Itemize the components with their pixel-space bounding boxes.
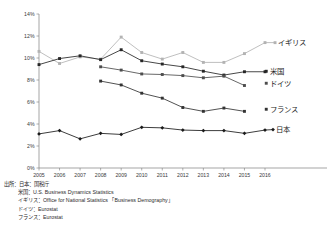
source-line: イギリス：Office for National Statistics 「Bus… bbox=[4, 196, 329, 204]
line-chart: 0%2%4%6%8%10%12%14% 20052006200720082009… bbox=[0, 0, 331, 178]
x-tick-label: 2005 bbox=[33, 172, 45, 178]
label-anchor-marker bbox=[271, 128, 275, 132]
series-line bbox=[39, 50, 265, 75]
y-tick-label: 6% bbox=[27, 99, 35, 105]
y-tick-label: 4% bbox=[27, 121, 35, 127]
data-point bbox=[202, 110, 205, 113]
data-point bbox=[161, 73, 164, 76]
y-tick-label: 0% bbox=[27, 165, 35, 171]
data-point bbox=[201, 129, 205, 133]
data-point bbox=[222, 107, 225, 110]
label-anchor-marker bbox=[265, 82, 268, 85]
source-heading: 出所：日本：国税庁 bbox=[4, 180, 329, 188]
data-point bbox=[161, 97, 164, 100]
x-tick-label: 2009 bbox=[115, 172, 127, 178]
series-label-1: イギリス bbox=[278, 38, 306, 47]
label-anchor-marker bbox=[265, 70, 268, 73]
x-tick-label: 2007 bbox=[74, 172, 86, 178]
data-point bbox=[181, 65, 184, 68]
series-label-group: イギリス米国ドイツフランス日本 bbox=[265, 38, 306, 134]
x-tick-label: 2016 bbox=[259, 172, 271, 178]
x-tick-label: 2015 bbox=[239, 172, 251, 178]
source-line: 米国：U.S. Business Dynamics Statistics bbox=[4, 188, 329, 196]
x-tick-label: 2014 bbox=[218, 172, 230, 178]
chart-canvas: 0%2%4%6%8%10%12%14% 20052006200720082009… bbox=[0, 0, 331, 178]
label-anchor-marker bbox=[265, 108, 268, 111]
data-point bbox=[120, 69, 123, 72]
x-tick-label: 2013 bbox=[198, 172, 210, 178]
label-anchor-marker bbox=[274, 41, 277, 44]
data-point bbox=[120, 84, 123, 87]
x-tick-label: 2006 bbox=[54, 172, 66, 178]
data-point bbox=[78, 137, 82, 141]
data-point bbox=[202, 76, 205, 79]
series-2 bbox=[38, 48, 267, 76]
data-point bbox=[140, 92, 143, 95]
y-tick-label: 14% bbox=[24, 11, 35, 17]
data-point bbox=[120, 48, 123, 51]
data-point bbox=[160, 126, 164, 130]
data-point bbox=[161, 63, 164, 66]
source-notes: 出所：日本：国税庁 米国：U.S. Business Dynamics Stat… bbox=[4, 180, 329, 221]
data-point bbox=[243, 84, 246, 87]
data-point bbox=[222, 75, 225, 78]
y-tick-label: 2% bbox=[27, 143, 35, 149]
data-point bbox=[119, 133, 123, 137]
series-label-3: ドイツ bbox=[270, 79, 291, 88]
chart-page: 0%2%4%6%8%10%12%14% 20052006200720082009… bbox=[0, 0, 331, 229]
y-tick-label: 12% bbox=[24, 33, 35, 39]
series-label-4: フランス bbox=[270, 105, 298, 114]
x-tick-label: 2010 bbox=[136, 172, 148, 178]
series-label-2: 米国 bbox=[270, 67, 284, 76]
data-point bbox=[120, 36, 123, 39]
y-tick-label: 10% bbox=[24, 55, 35, 61]
data-point bbox=[99, 131, 103, 135]
x-tick-label: 2011 bbox=[157, 172, 168, 178]
data-point bbox=[38, 50, 41, 53]
series-4 bbox=[99, 80, 246, 113]
source-line: ドイツ：Eurostat bbox=[4, 205, 329, 213]
x-axis-ticks: 2005200620072008200920102011201220132014… bbox=[33, 168, 271, 178]
data-point bbox=[181, 106, 184, 109]
data-point bbox=[243, 52, 246, 55]
x-tick-label: 2012 bbox=[177, 172, 189, 178]
data-point bbox=[181, 51, 184, 54]
data-point bbox=[140, 73, 143, 76]
data-point bbox=[161, 58, 164, 61]
series-1 bbox=[38, 36, 267, 65]
data-point bbox=[99, 65, 102, 68]
data-point bbox=[99, 80, 102, 83]
data-point bbox=[140, 59, 143, 62]
y-axis-ticks: 0%2%4%6%8%10%12%14% bbox=[24, 11, 39, 171]
data-point bbox=[222, 129, 226, 133]
source-line: フランス：Eurostat bbox=[4, 213, 329, 221]
data-point bbox=[243, 110, 246, 113]
data-point bbox=[140, 51, 143, 54]
series-group bbox=[37, 36, 267, 141]
series-label-5: 日本 bbox=[276, 125, 291, 134]
data-point bbox=[37, 132, 41, 136]
data-point bbox=[243, 70, 246, 73]
series-5 bbox=[37, 125, 267, 140]
data-point bbox=[58, 62, 61, 65]
x-tick-label: 2008 bbox=[95, 172, 107, 178]
data-point bbox=[222, 61, 225, 64]
data-point bbox=[181, 74, 184, 77]
data-point bbox=[38, 63, 41, 66]
series-line bbox=[39, 127, 265, 139]
data-point bbox=[58, 129, 62, 133]
data-point bbox=[243, 131, 247, 135]
data-point bbox=[58, 57, 61, 60]
data-point bbox=[202, 70, 205, 73]
data-point bbox=[202, 61, 205, 64]
series-line bbox=[39, 37, 265, 63]
data-point bbox=[181, 128, 185, 132]
data-point bbox=[140, 125, 144, 129]
y-tick-label: 8% bbox=[27, 77, 35, 83]
data-point bbox=[99, 58, 102, 61]
data-point bbox=[79, 54, 82, 57]
